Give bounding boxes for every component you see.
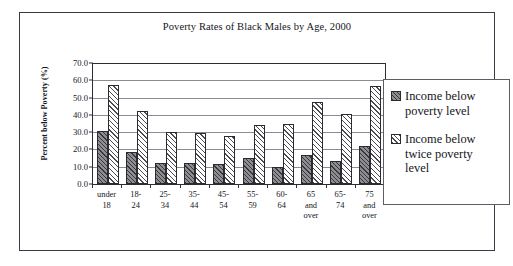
bar-group <box>210 63 239 184</box>
y-tick-label: 30.0 <box>73 127 88 137</box>
bar[interactable] <box>370 86 381 184</box>
legend-swatch-icon <box>391 91 401 101</box>
bar[interactable] <box>254 125 265 184</box>
x-tick-mark <box>92 184 93 188</box>
bar[interactable] <box>301 155 312 184</box>
bar[interactable] <box>224 136 235 184</box>
legend-label-line: twice poverty <box>405 147 476 162</box>
y-tick-label: 0.0 <box>77 179 88 189</box>
legend-label-line: Income below <box>405 89 476 104</box>
bar[interactable] <box>213 164 224 184</box>
chart-legend: Income belowpoverty levelIncome belowtwi… <box>383 79 510 205</box>
legend-entry[interactable]: Income belowpoverty level <box>391 89 503 118</box>
bar[interactable] <box>283 124 294 184</box>
bar[interactable] <box>166 132 177 184</box>
legend-label-line: Income below <box>405 132 476 147</box>
y-tick-label: 20.0 <box>73 144 88 154</box>
bar[interactable] <box>184 163 195 184</box>
legend-label-line: poverty level <box>405 104 476 119</box>
legend-label: Income belowtwice povertylevel <box>405 132 476 176</box>
x-tick-mark <box>238 184 239 188</box>
y-tick-label: 70.0 <box>73 58 88 68</box>
x-tick-mark <box>180 184 181 188</box>
bar[interactable] <box>97 131 108 184</box>
bar-group <box>181 63 210 184</box>
x-axis-label-line: over <box>349 211 390 222</box>
bar-group <box>356 63 385 184</box>
x-axis-ticks <box>92 184 384 189</box>
x-tick-mark <box>296 184 297 188</box>
plot-area: 70.060.050.040.030.020.010.00.0 <box>92 63 385 185</box>
bar[interactable] <box>195 133 206 184</box>
x-tick-mark <box>150 184 151 188</box>
bars-layer <box>93 63 385 184</box>
bar[interactable] <box>359 146 370 184</box>
bar[interactable] <box>272 167 283 184</box>
x-axis-labels: under1818-2425-3435-4445-5455-5960-6465a… <box>92 190 384 250</box>
x-axis-label-line: over <box>290 211 331 222</box>
y-tick-label: 40.0 <box>73 110 88 120</box>
bar[interactable] <box>243 158 254 184</box>
x-tick-mark <box>209 184 210 188</box>
bar-group <box>297 63 326 184</box>
x-tick-mark <box>355 184 356 188</box>
chart-frame: Poverty Rates of Black Males by Age, 200… <box>19 12 495 251</box>
x-tick-mark <box>267 184 268 188</box>
y-axis-title: Percent below Poverty (%) <box>40 54 49 174</box>
bar-group <box>239 63 268 184</box>
bar[interactable] <box>155 163 166 184</box>
bar[interactable] <box>312 102 323 184</box>
y-tick-label: 10.0 <box>73 162 88 172</box>
chart-title: Poverty Rates of Black Males by Age, 200… <box>20 21 494 32</box>
bar[interactable] <box>108 85 119 184</box>
x-tick-mark <box>121 184 122 188</box>
legend-label: Income belowpoverty level <box>405 89 476 118</box>
legend-entry[interactable]: Income belowtwice povertylevel <box>391 132 503 176</box>
bar[interactable] <box>126 152 137 184</box>
legend-label-line: level <box>405 161 476 176</box>
bar-group <box>327 63 356 184</box>
bar[interactable] <box>341 114 352 184</box>
bar-group <box>151 63 180 184</box>
y-tick-label: 50.0 <box>73 93 88 103</box>
legend-swatch-icon <box>391 134 401 144</box>
bar[interactable] <box>330 161 341 184</box>
bar[interactable] <box>137 111 148 184</box>
bar-group <box>268 63 297 184</box>
bar-group <box>93 63 122 184</box>
bar-group <box>122 63 151 184</box>
x-tick-mark <box>326 184 327 188</box>
y-tick-label: 60.0 <box>73 75 88 85</box>
